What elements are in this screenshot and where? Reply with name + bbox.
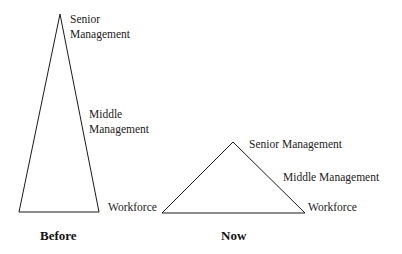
now-title: Now xyxy=(221,228,246,244)
before-title: Before xyxy=(40,228,77,244)
diagram-canvas xyxy=(0,0,402,254)
before-senior-label: Senior Management xyxy=(70,12,130,42)
now-senior-label: Senior Management xyxy=(249,137,342,152)
before-senior-line2: Management xyxy=(70,27,130,42)
before-pyramid xyxy=(19,14,99,212)
before-senior-line1: Senior xyxy=(70,12,130,27)
before-middle-label: Middle Management xyxy=(89,107,149,137)
before-middle-line2: Management xyxy=(89,122,149,137)
now-middle-label: Middle Management xyxy=(283,170,379,185)
now-workforce-label: Workforce xyxy=(308,200,357,215)
before-workforce-label: Workforce xyxy=(108,200,157,215)
before-middle-line1: Middle xyxy=(89,107,149,122)
